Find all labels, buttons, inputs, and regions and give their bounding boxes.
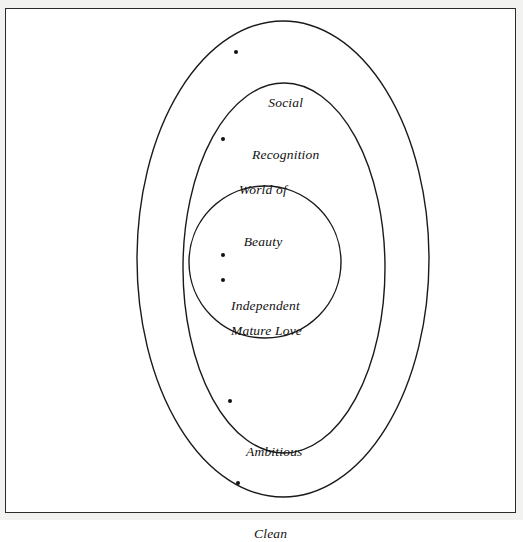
bullet-icon <box>221 137 225 141</box>
bullet-icon <box>234 50 238 54</box>
label-ambitious-text: Ambitious <box>246 443 303 460</box>
label-clean: Clean <box>230 473 287 542</box>
bullet-icon <box>228 399 232 403</box>
label-mature-love-text: Mature Love <box>231 322 302 339</box>
bullet-icon <box>221 253 225 257</box>
label-social-recognition-line1: Social <box>252 94 319 111</box>
label-world-of-beauty-line1: World of <box>239 181 287 198</box>
label-clean-text: Clean <box>254 525 287 542</box>
bullet-icon <box>236 481 240 485</box>
bullet-icon <box>221 278 225 282</box>
label-mature-love: Mature Love <box>215 270 302 374</box>
